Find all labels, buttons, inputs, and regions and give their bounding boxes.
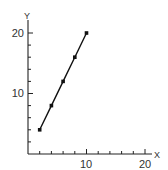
data-point-marker bbox=[61, 80, 65, 84]
x-axis-label: X bbox=[154, 150, 160, 160]
y-ticks bbox=[28, 33, 33, 142]
x-tick-label-20: 20 bbox=[139, 158, 151, 170]
data-point-marker bbox=[85, 31, 89, 35]
data-point-marker bbox=[73, 55, 77, 59]
data-point-marker bbox=[38, 128, 42, 132]
y-tick-label-20: 20 bbox=[12, 27, 24, 39]
x-ticks bbox=[40, 149, 145, 154]
x-tick-label-10: 10 bbox=[80, 158, 92, 170]
y-axis-label: Y bbox=[24, 11, 30, 21]
y-tick-label-10: 10 bbox=[12, 87, 24, 99]
data-series bbox=[38, 31, 88, 131]
axes bbox=[28, 20, 152, 154]
line-chart: Y X 20 10 10 20 bbox=[0, 0, 168, 170]
data-point-marker bbox=[50, 104, 54, 108]
